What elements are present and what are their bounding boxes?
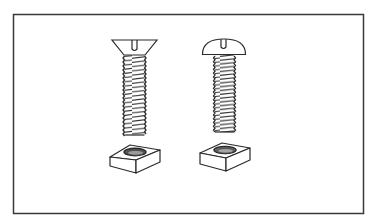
screws-and-nuts-illustration [0, 0, 374, 224]
threaded-shank [125, 55, 145, 135]
flat-head [112, 40, 157, 55]
nut-side-left [110, 157, 136, 173]
nut-hole-inner [128, 150, 144, 155]
thread-edge-left [214, 56, 216, 132]
square-nut-right [200, 143, 250, 171]
thread-edge-right [234, 56, 236, 132]
thread-edge-right [145, 56, 147, 134]
figure-frame [14, 15, 364, 214]
figure-canvas [0, 0, 374, 224]
round-head-screw [203, 39, 246, 132]
square-nut-left [110, 145, 160, 173]
nut-hole-inner [218, 149, 234, 154]
thread-edge-left [123, 56, 125, 136]
threaded-shank [215, 55, 234, 132]
flat-head-screw [112, 40, 157, 136]
round-head [203, 39, 246, 55]
